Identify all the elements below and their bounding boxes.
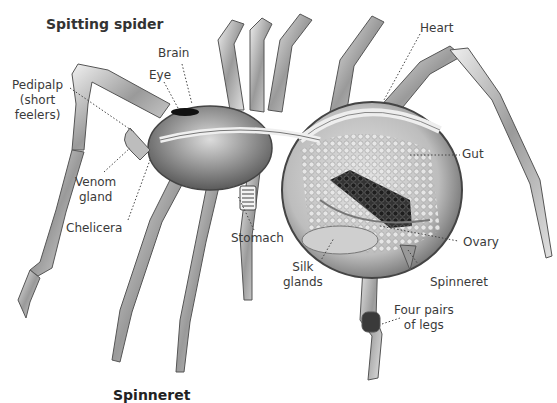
label-heart: Heart [420,21,453,36]
label-venom-gland: Venom gland [75,175,116,205]
label-venom-gland-line2: gland [75,190,116,205]
label-chelicera: Chelicera [66,221,122,236]
label-legs-line1: Four pairs [394,303,454,318]
label-silk-glands-line2: glands [283,275,323,290]
diagram-title: Spitting spider [46,16,164,32]
label-spinneret: Spinneret [430,275,488,290]
abdomen [282,102,462,278]
label-legs-line2: of legs [394,318,454,333]
label-gut: Gut [462,147,484,162]
label-eye: Eye [149,68,171,83]
label-pedipalp-line2: (short [12,93,63,108]
legs-front-left [112,160,260,372]
label-silk-glands: Silk glands [283,260,323,290]
label-pedipalp-line3: feelers) [12,108,63,123]
label-legs: Four pairs of legs [394,303,454,333]
label-pedipalp: Pedipalp (short feelers) [12,78,63,123]
label-stomach: Stomach [231,231,284,246]
label-ovary: Ovary [463,235,499,250]
label-pedipalp-line1: Pedipalp [12,78,63,93]
label-venom-gland-line1: Venom [75,175,116,190]
label-brain: Brain [158,46,189,61]
cut-off-heading: Spinneret [113,387,190,403]
label-silk-glands-line1: Silk [283,260,323,275]
